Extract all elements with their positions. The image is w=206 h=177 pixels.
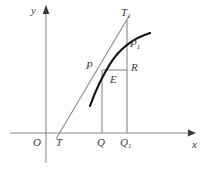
point-label-E: E <box>110 74 117 85</box>
x-axis-label: x <box>192 139 197 150</box>
point-label-Q1-subscript: 1 <box>128 142 132 150</box>
y-axis-label: y <box>31 5 36 16</box>
figure-canvas <box>0 0 206 177</box>
point-label-T1: T1 <box>121 7 131 18</box>
point-label-P1-base: P <box>130 37 137 49</box>
x-axis-arrow-icon <box>188 129 196 136</box>
y-axis <box>43 5 50 163</box>
point-label-Q: Q <box>97 137 105 148</box>
tangent-line <box>56 16 129 139</box>
geometry-figure: y x O T Q Q1 T1 P1 P E R <box>0 0 206 177</box>
point-label-P1: P1 <box>130 38 140 49</box>
y-axis-arrow-icon <box>43 5 50 14</box>
point-label-O: O <box>33 137 41 148</box>
point-label-P1-subscript: 1 <box>137 43 141 51</box>
point-label-Q1-base: Q <box>120 136 128 148</box>
point-label-T1-subscript: 1 <box>127 12 131 20</box>
point-label-Q1: Q1 <box>120 137 131 148</box>
point-label-T: T <box>56 137 62 148</box>
point-label-P: P <box>86 60 93 71</box>
point-label-R: R <box>131 62 138 73</box>
